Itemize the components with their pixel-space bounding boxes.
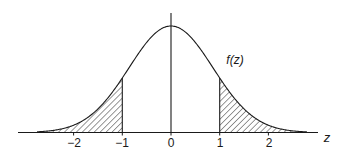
normal-distribution-chart: −2 −1 0 1 2 z f(z) bbox=[0, 0, 349, 158]
tick-label-0: 0 bbox=[168, 136, 175, 150]
curve-label: f(z) bbox=[226, 53, 243, 67]
tick-label-2: 2 bbox=[266, 136, 273, 150]
density-curve bbox=[37, 26, 307, 132]
right-tail-shaded-region bbox=[220, 78, 308, 133]
tick-label-neg1: −1 bbox=[115, 136, 129, 150]
x-axis-label: z bbox=[323, 130, 331, 145]
left-tail-shaded-region bbox=[37, 79, 122, 133]
tick-label-neg2: −2 bbox=[67, 136, 81, 150]
tick-label-1: 1 bbox=[217, 136, 224, 150]
